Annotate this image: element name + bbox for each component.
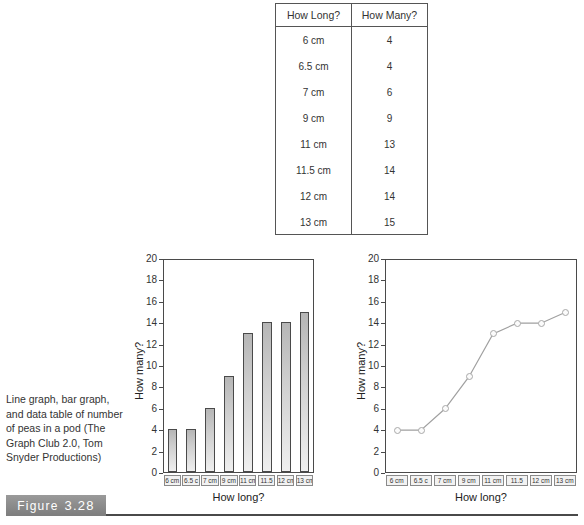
bar-chart-y-tick-mark (159, 430, 163, 431)
bar-chart-y-tick-label: 16 (139, 297, 157, 307)
line-chart-data-point (514, 320, 521, 327)
bar (168, 429, 178, 472)
bar-chart-y-axis-title: How many? (133, 342, 145, 400)
figure-rule (106, 514, 578, 516)
bar-chart-x-tick-label: 9 cm (220, 475, 237, 486)
bar (243, 333, 253, 472)
bar-chart-x-tick-label: 6.5 c (182, 475, 199, 486)
bar (300, 312, 310, 473)
bar-chart-y-tick-label: 4 (139, 425, 157, 435)
figure-badge: Figure 3.28 (6, 495, 106, 516)
bar-chart-y-tick-label: 18 (139, 275, 157, 285)
bar-chart-y-tick-mark (159, 366, 163, 367)
bar-chart-y-tick-mark (159, 473, 163, 474)
bar (281, 322, 291, 472)
bar-chart-y-tick-mark (159, 387, 163, 388)
bar-chart-y-tick-mark (159, 259, 163, 260)
bar (205, 408, 215, 472)
bar-chart-y-tick-label: 20 (139, 254, 157, 264)
bar-chart-y-tick-mark (159, 345, 163, 346)
bar-chart-x-tick-label: 13 cm (296, 475, 313, 486)
line-chart-data-point (466, 373, 473, 380)
line-chart-data-point (418, 427, 425, 434)
figure-caption: Line graph, bar graph, and data table of… (6, 392, 126, 465)
bar-chart-x-tick-label: 6 cm (164, 475, 181, 486)
figure-badge-number: 3.28 (65, 498, 95, 513)
line-chart-data-point (490, 330, 497, 337)
bar-chart-y-tick-label: 6 (139, 404, 157, 414)
bar-chart-x-tick-label: 11.5 (258, 475, 275, 486)
bar-chart-y-tick-label: 0 (139, 468, 157, 478)
bar-chart-x-tick-labels: 6 cm6.5 c7 cm9 cm11 cm11.512 cm13 cm (163, 475, 314, 486)
bar-chart-y-tick-label: 14 (139, 318, 157, 328)
figure-badge-word: Figure (17, 499, 58, 513)
bar-chart-y-tick-mark (159, 302, 163, 303)
bar (224, 376, 234, 472)
bar-chart-x-tick-label: 7 cm (201, 475, 218, 486)
line-chart-data-point (562, 309, 569, 316)
bar-chart-y-tick-mark (159, 409, 163, 410)
line-chart-data-point (394, 427, 401, 434)
line-chart-data-point (538, 320, 545, 327)
line-chart-data-point (442, 405, 449, 412)
line-chart: 02468101214161820 How many? 6 cm6.5 c7 c… (330, 0, 584, 525)
bar-chart-y-tick-label: 2 (139, 447, 157, 457)
bar-chart-x-tick-label: 12 cm (277, 475, 294, 486)
bar-chart-x-tick-label: 11 cm (239, 475, 256, 486)
bar (262, 322, 272, 472)
bar (186, 429, 196, 472)
bar-chart-y-tick-mark (159, 323, 163, 324)
bar-chart-y-tick-mark (159, 280, 163, 281)
bar-chart-x-axis-title: How long? (163, 491, 314, 503)
line-chart-series-path (330, 0, 584, 525)
bar-chart-y-tick-mark (159, 452, 163, 453)
